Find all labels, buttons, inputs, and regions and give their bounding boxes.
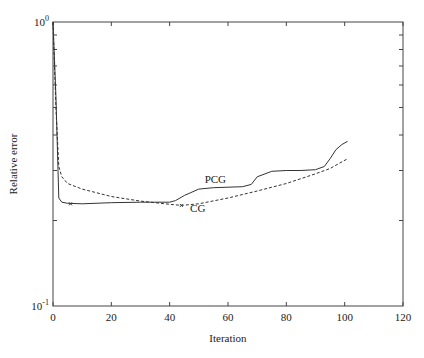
series-label-pcg: PCG — [205, 173, 226, 185]
series-pcg-line — [53, 22, 348, 204]
plot-frame — [53, 22, 403, 306]
series-cg-line — [53, 22, 348, 205]
chart: 020406080100120 10010-1 PCGCG Iteration … — [0, 0, 424, 358]
y-axis-label: Relative error — [7, 133, 19, 194]
x-tick-label: 60 — [223, 311, 235, 323]
x-axis-ticks: 020406080100120 — [50, 22, 412, 323]
y-axis-ticks: 10010-1 — [31, 14, 403, 312]
x-tick-label: 0 — [50, 311, 56, 323]
x-tick-label: 120 — [395, 311, 412, 323]
y-tick-label: 10-1 — [31, 298, 49, 312]
x-tick-label: 20 — [106, 311, 118, 323]
series-labels: PCGCG — [190, 173, 226, 213]
y-tick-label: 100 — [34, 14, 49, 28]
x-tick-label: 80 — [281, 311, 293, 323]
x-tick-label: 100 — [336, 311, 353, 323]
x-tick-label: 40 — [164, 311, 176, 323]
series-lines — [53, 22, 348, 207]
series-label-cg: CG — [190, 202, 205, 214]
x-axis-label: Iteration — [209, 332, 247, 344]
